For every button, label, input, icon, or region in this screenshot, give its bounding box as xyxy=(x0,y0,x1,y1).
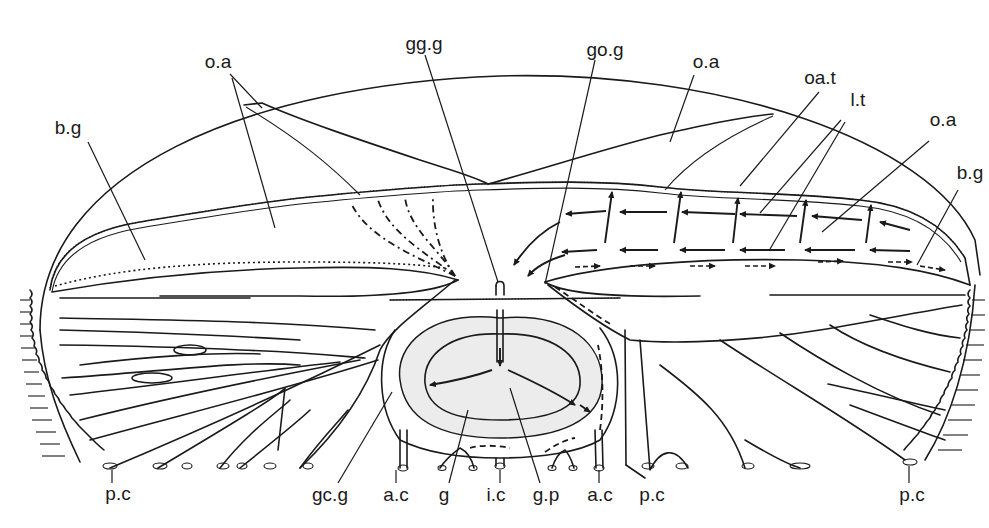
right-tentacle-fringe xyxy=(938,300,985,450)
left-bell-wall xyxy=(40,330,80,462)
umbrella-outline xyxy=(40,76,980,330)
medusa-diagram: o.a gg.g go.g o.a oa.t l.t o.a b.g b.g p… xyxy=(0,0,989,528)
label-l-t: l.t xyxy=(851,90,866,109)
left-canal-system xyxy=(60,280,455,468)
label-gc-g: gc.g xyxy=(312,485,348,504)
label-oral-arm-left: o.a xyxy=(205,52,231,71)
oral-arm-ciliated-band-inner xyxy=(52,188,961,292)
label-oral-arm-right: o.a xyxy=(930,110,956,129)
right-canal-system xyxy=(548,285,962,478)
label-a-c-left: a.c xyxy=(383,485,408,504)
label-g: g xyxy=(439,485,450,504)
ciliary-arrows-right xyxy=(514,192,945,276)
oral-arm-cilia xyxy=(50,182,965,288)
label-oa-t: oa.t xyxy=(804,68,836,87)
label-oral-arm-mid: o.a xyxy=(693,52,719,71)
label-p-c-right: p.c xyxy=(899,485,924,504)
label-g-p: g.p xyxy=(533,485,559,504)
label-b-g-right: b.g xyxy=(957,163,983,182)
label-p-c-mid: p.c xyxy=(639,485,664,504)
left-tentacle-fringe xyxy=(20,300,65,456)
label-i-c: i.c xyxy=(487,485,506,504)
oral-arm-flap-left xyxy=(244,103,488,184)
label-a-c-right: a.c xyxy=(587,485,612,504)
oral-arm-flap-right xyxy=(488,114,773,184)
subumbrella-line-left xyxy=(52,267,458,292)
label-gg-g: gg.g xyxy=(406,34,443,53)
left-canal-openings xyxy=(103,463,313,469)
label-go-g: go.g xyxy=(587,40,624,59)
diagram-drawing xyxy=(0,0,989,528)
label-b-g-left: b.g xyxy=(55,118,81,137)
manubrium xyxy=(496,282,504,296)
subumbrella-line-right xyxy=(545,260,970,285)
label-p-c-left: p.c xyxy=(105,484,130,503)
